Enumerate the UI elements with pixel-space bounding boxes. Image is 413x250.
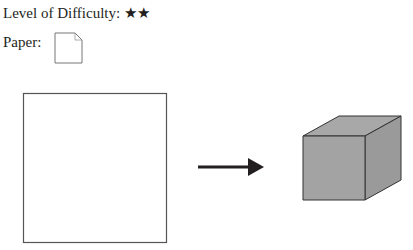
arrow-icon — [198, 158, 264, 176]
cube-icon — [303, 116, 401, 200]
diagram — [0, 0, 413, 250]
paper-icon — [55, 33, 82, 63]
square-paper — [24, 94, 167, 243]
